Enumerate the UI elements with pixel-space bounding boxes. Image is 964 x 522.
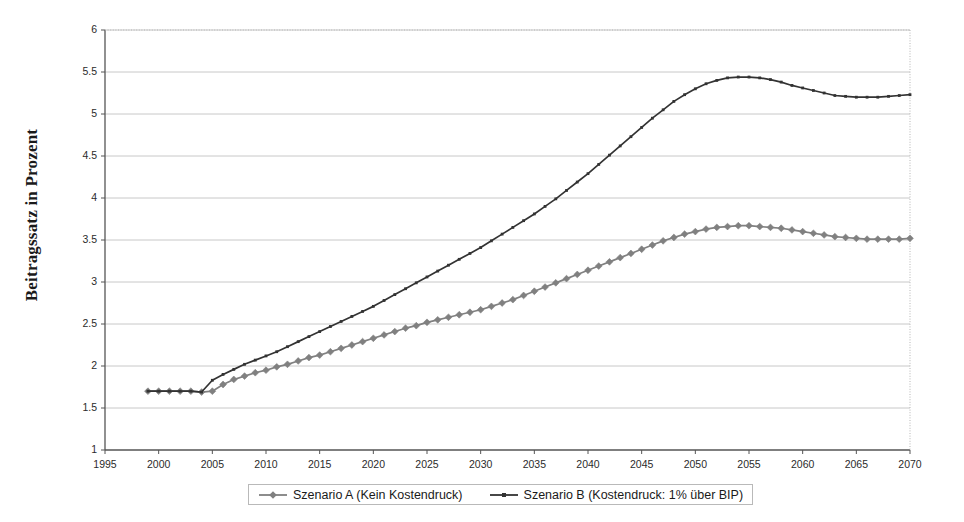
data-point-marker [896, 236, 903, 243]
data-point-marker [361, 310, 364, 313]
legend-diamond-marker-icon [258, 489, 288, 501]
legend-square-marker-icon [489, 489, 519, 501]
data-point-marker [243, 363, 246, 366]
data-point-marker [327, 348, 334, 355]
data-point-marker [254, 359, 257, 362]
data-point-marker [275, 350, 278, 353]
data-point-marker [477, 306, 484, 313]
y-tick-label: 5 [57, 107, 97, 119]
y-tick-label: 1.5 [57, 401, 97, 413]
data-point-marker [348, 342, 355, 349]
data-point-marker [531, 288, 538, 295]
data-point-marker [855, 96, 858, 99]
data-point-marker [490, 239, 493, 242]
data-point-marker [413, 322, 420, 329]
data-point-marker [565, 189, 568, 192]
data-point-marker [458, 258, 461, 261]
data-point-marker [778, 225, 785, 232]
data-point-marker [864, 236, 871, 243]
data-point-marker [585, 267, 592, 274]
data-point-marker [340, 320, 343, 323]
data-point-marker [833, 94, 836, 97]
data-point-marker [885, 236, 892, 243]
y-tick-label: 2.5 [57, 317, 97, 329]
series-line [148, 77, 910, 392]
data-point-marker [338, 345, 345, 352]
data-point-marker [232, 368, 235, 371]
data-point-marker [393, 293, 396, 296]
data-point-marker [426, 276, 429, 279]
data-point-marker [799, 228, 806, 235]
data-point-marker [823, 92, 826, 95]
data-point-marker [662, 108, 665, 111]
legend-item-label: Szenario B (Kostendruck: 1% über BIP) [524, 488, 744, 502]
data-point-marker [640, 126, 643, 129]
data-point-marker [520, 292, 527, 299]
data-point-marker [756, 223, 763, 230]
data-point-marker [606, 258, 613, 265]
series-a [145, 222, 914, 395]
data-point-marker [630, 135, 633, 138]
data-point-marker [479, 246, 482, 249]
legend-item-a[interactable]: Szenario A (Kein Kostendruck) [258, 488, 463, 502]
data-point-marker [853, 235, 860, 242]
x-tick-label: 2025 [402, 458, 452, 470]
data-point-marker [230, 376, 237, 383]
data-point-marker [273, 363, 280, 370]
chart-figure: Beitragssatz in Prozent 11.522.533.544.5… [0, 0, 964, 522]
y-tick-label: 1 [57, 443, 97, 455]
x-tick-label: 2015 [295, 458, 345, 470]
data-point-marker [649, 242, 656, 249]
data-point-marker [597, 163, 600, 166]
x-tick-label: 2070 [885, 458, 935, 470]
data-point-marker [563, 275, 570, 282]
data-point-marker [769, 78, 772, 81]
data-point-marker [542, 284, 549, 291]
data-point-marker [350, 315, 353, 318]
series-b [147, 76, 912, 394]
data-point-marker [211, 379, 214, 382]
data-point-marker [544, 205, 547, 208]
x-tick-label: 2035 [509, 458, 559, 470]
data-point-marker [522, 219, 525, 222]
data-point-marker [359, 338, 366, 345]
data-point-marker [383, 299, 386, 302]
data-point-marker [791, 84, 794, 87]
data-point-marker [810, 230, 817, 237]
data-point-marker [703, 226, 710, 233]
x-tick-label: 2065 [831, 458, 881, 470]
data-point-marker [404, 287, 407, 290]
y-tick-label: 2 [57, 359, 97, 371]
x-tick-label: 2000 [134, 458, 184, 470]
data-point-marker [552, 279, 559, 286]
data-point-marker [241, 373, 248, 380]
y-tick-label: 4 [57, 191, 97, 203]
data-point-marker [168, 390, 171, 393]
data-point-marker [694, 87, 697, 90]
data-point-marker [780, 81, 783, 84]
data-point-marker [265, 355, 268, 358]
data-point-marker [735, 222, 742, 229]
data-point-marker [844, 95, 847, 98]
data-point-marker [189, 390, 192, 393]
legend-item-b[interactable]: Szenario B (Kostendruck: 1% über BIP) [489, 488, 744, 502]
data-point-marker [619, 145, 622, 148]
x-tick-label: 2030 [456, 458, 506, 470]
data-point-marker [748, 76, 751, 79]
data-point-marker [737, 76, 740, 79]
data-point-marker [874, 236, 881, 243]
data-point-marker [147, 390, 150, 393]
data-point-marker [456, 311, 463, 318]
x-tick-label: 2020 [348, 458, 398, 470]
data-point-marker [316, 352, 323, 359]
data-point-marker [724, 223, 731, 230]
x-tick-label: 2040 [563, 458, 613, 470]
data-point-marker [608, 154, 611, 157]
x-tick-label: 2055 [724, 458, 774, 470]
data-point-marker [381, 332, 388, 339]
data-point-marker [329, 325, 332, 328]
data-point-marker [715, 79, 718, 82]
x-tick-label: 2060 [778, 458, 828, 470]
data-point-marker [576, 181, 579, 184]
x-tick-label: 2005 [187, 458, 237, 470]
